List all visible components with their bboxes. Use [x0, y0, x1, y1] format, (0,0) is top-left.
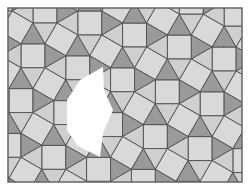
- square-tile[interactable]: [87, 157, 111, 181]
- square-tile[interactable]: [200, 92, 224, 116]
- square-tile[interactable]: [179, 0, 203, 14]
- square-tile[interactable]: [212, 47, 236, 71]
- square-tile[interactable]: [233, 149, 249, 173]
- triangle-tile[interactable]: [236, 0, 249, 2]
- square-tile[interactable]: [78, 11, 102, 35]
- square-tile[interactable]: [203, 0, 236, 2]
- square-tile[interactable]: [143, 125, 167, 149]
- square-tile[interactable]: [245, 104, 249, 128]
- square-tile[interactable]: [131, 169, 155, 189]
- triangle-tile[interactable]: [224, 0, 248, 2]
- square-tile[interactable]: [21, 44, 45, 68]
- square-tile[interactable]: [188, 137, 212, 161]
- triangle-tile[interactable]: [245, 83, 249, 104]
- square-tile[interactable]: [42, 145, 66, 169]
- square-tile[interactable]: [111, 68, 135, 92]
- triangle-tile[interactable]: [248, 14, 249, 38]
- triangle-tile[interactable]: [248, 2, 249, 26]
- tiling-board[interactable]: [0, 0, 249, 189]
- square-tile[interactable]: [0, 0, 12, 11]
- square-tile[interactable]: [123, 23, 147, 47]
- square-tile[interactable]: [33, 0, 57, 23]
- square-tile[interactable]: [66, 56, 90, 80]
- square-tile[interactable]: [155, 80, 179, 104]
- square-tile[interactable]: [248, 0, 249, 14]
- square-tile[interactable]: [135, 0, 159, 2]
- triangle-tile[interactable]: [114, 0, 135, 2]
- square-tile[interactable]: [167, 35, 191, 59]
- tile-layer: [0, 0, 249, 189]
- square-tile[interactable]: [245, 173, 249, 189]
- triangle-tile[interactable]: [245, 128, 249, 149]
- triangle-tile[interactable]: [78, 0, 102, 11]
- triangle-tile[interactable]: [159, 0, 180, 2]
- square-tile[interactable]: [0, 133, 21, 157]
- square-tile[interactable]: [9, 89, 33, 113]
- square-tile[interactable]: [224, 2, 248, 26]
